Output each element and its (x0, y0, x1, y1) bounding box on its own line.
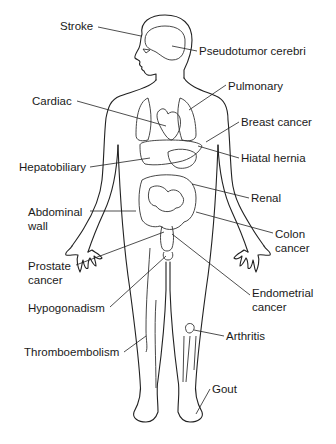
label-pulmonary: Pulmonary (228, 79, 283, 93)
label-endometrial-cancer: Endometrial cancer (252, 286, 313, 314)
hand-right (234, 246, 270, 272)
label-thromboembolism: Thromboembolism (24, 345, 119, 359)
leader-thromboembolism (124, 336, 146, 352)
leg-left (118, 145, 166, 422)
leader-stroke (98, 27, 141, 36)
brain-outline (145, 26, 185, 60)
label-abdominal-wall: Abdominal wall (28, 205, 82, 233)
leader-renal (192, 184, 249, 198)
knee-bone (185, 323, 194, 333)
leader-hypogonadism (110, 256, 166, 307)
torso-outline (72, 78, 264, 246)
leader-arthritis (194, 330, 224, 336)
label-gout: Gout (212, 382, 237, 396)
label-arthritis: Arthritis (226, 329, 265, 343)
label-hiatal-hernia: Hiatal hernia (241, 151, 306, 165)
hand-left (66, 246, 102, 272)
leader-breast (206, 122, 239, 142)
vein-left-leg (146, 248, 150, 352)
bladder (163, 252, 173, 260)
label-hepatobiliary: Hepatobiliary (19, 160, 86, 174)
leader-colon (196, 212, 273, 233)
eye (143, 49, 150, 53)
leader-cardiac (77, 101, 166, 126)
intestines (139, 175, 196, 230)
label-breast-cancer: Breast cancer (241, 115, 312, 129)
leader-pulmonary (189, 85, 226, 110)
label-cardiac: Cardiac (32, 94, 72, 108)
label-colon-cancer: Colon cancer (275, 227, 310, 255)
stomach (168, 149, 196, 168)
vein-left-leg-2 (155, 300, 156, 388)
label-renal: Renal (251, 191, 281, 205)
leader-gout (196, 389, 210, 414)
diagram-canvas: Stroke Pseudotumor cerebri Pulmonary Car… (0, 0, 336, 444)
label-stroke: Stroke (60, 19, 93, 33)
leader-endometrial (172, 234, 250, 295)
liver (140, 140, 202, 165)
tibia-bone (183, 336, 196, 382)
label-prostate-cancer: Prostate cancer (28, 259, 71, 287)
leader-hepatobiliary (90, 158, 150, 167)
label-hypogonadism: Hypogonadism (28, 301, 105, 315)
label-pseudotumor-cerebri: Pseudotumor cerebri (199, 44, 306, 58)
head-outline (135, 15, 192, 80)
